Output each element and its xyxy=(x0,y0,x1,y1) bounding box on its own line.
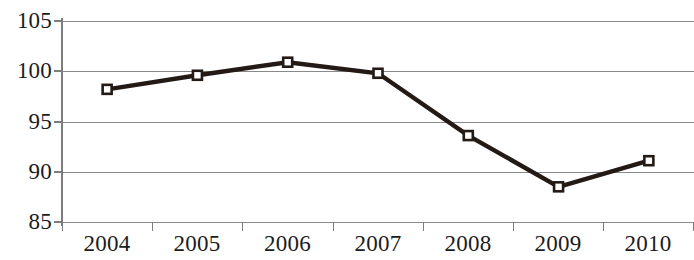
data-point-2004 xyxy=(103,85,112,94)
line-chart: 105 100 95 90 85 2004 2005 2006 2007 200… xyxy=(0,0,694,260)
data-point-2007 xyxy=(374,69,383,78)
data-point-2005 xyxy=(193,71,202,80)
data-point-2008 xyxy=(464,131,473,140)
series-line xyxy=(107,62,649,187)
data-point-2006 xyxy=(283,58,292,67)
data-series-layer xyxy=(0,0,694,260)
data-point-2010 xyxy=(644,156,653,165)
data-point-2009 xyxy=(554,182,563,191)
